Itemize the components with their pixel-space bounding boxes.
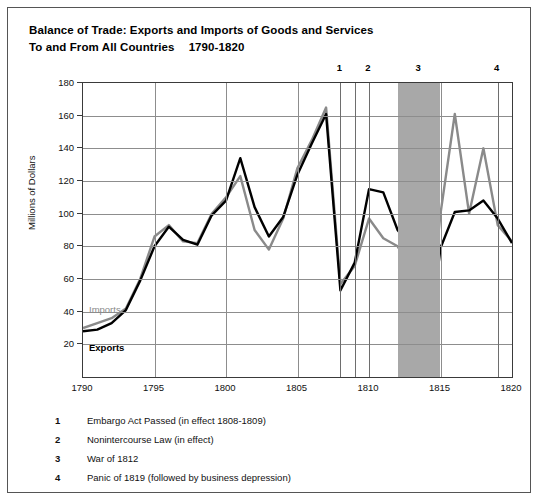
x-axis-tick-label: 1820 bbox=[500, 382, 521, 393]
footnote-text: Embargo Act Passed (in effect 1808-1809) bbox=[87, 415, 266, 426]
war-of-1812-band bbox=[398, 83, 441, 377]
plot-box: Imports Exports bbox=[82, 82, 513, 378]
gridline-v bbox=[441, 83, 442, 377]
gridline-v bbox=[298, 83, 299, 377]
event-line bbox=[340, 83, 341, 377]
event-marker-3: 3 bbox=[415, 62, 420, 73]
x-axis-tick-label: 1815 bbox=[429, 382, 450, 393]
gridline-v bbox=[226, 83, 227, 377]
y-axis-tick-label: 20 bbox=[40, 338, 74, 349]
event-marker-2: 2 bbox=[365, 62, 370, 73]
exports-series-label: Exports bbox=[89, 342, 124, 353]
y-axis-tick-label: 140 bbox=[40, 142, 74, 153]
x-axis-tick-label: 1805 bbox=[286, 382, 307, 393]
event-line bbox=[369, 83, 370, 377]
footnote-number: 2 bbox=[55, 434, 67, 445]
y-axis-tick-label: 160 bbox=[40, 109, 74, 120]
y-axis-tick-label: 80 bbox=[40, 240, 74, 251]
footnote-item: 3 War of 1812 bbox=[55, 453, 455, 472]
footnote-item: 4 Panic of 1819 (followed by business de… bbox=[55, 472, 455, 491]
imports-series-label: Imports bbox=[89, 304, 121, 315]
gridline-v bbox=[155, 83, 156, 377]
chart-page: Balance of Trade: Exports and Imports of… bbox=[0, 0, 540, 502]
footnote-item: 1 Embargo Act Passed (in effect 1808-180… bbox=[55, 415, 455, 434]
x-axis-tick-label: 1810 bbox=[357, 382, 378, 393]
y-axis-tick-label: 60 bbox=[40, 273, 74, 284]
x-axis-tick-label: 1790 bbox=[71, 382, 92, 393]
event-marker-4: 4 bbox=[494, 62, 499, 73]
footnote-item: 2 Nonintercourse Law (in effect) bbox=[55, 434, 455, 453]
footnote-number: 1 bbox=[55, 415, 67, 426]
footnote-text: Panic of 1819 (followed by business depr… bbox=[87, 472, 291, 483]
event-line bbox=[355, 83, 356, 377]
footnote-number: 3 bbox=[55, 453, 67, 464]
footnotes: 1 Embargo Act Passed (in effect 1808-180… bbox=[55, 415, 455, 491]
y-axis-title: Millions of Dollars bbox=[26, 156, 37, 230]
y-axis-tick-label: 120 bbox=[40, 175, 74, 186]
y-axis-tick-label: 180 bbox=[40, 77, 74, 88]
x-axis-tick-label: 1800 bbox=[214, 382, 235, 393]
footnote-number: 4 bbox=[55, 472, 67, 483]
y-axis-tick-label: 40 bbox=[40, 305, 74, 316]
footnote-text: Nonintercourse Law (in effect) bbox=[87, 434, 214, 445]
footnote-text: War of 1812 bbox=[87, 453, 138, 464]
event-marker-1: 1 bbox=[337, 62, 342, 73]
event-line bbox=[498, 83, 499, 377]
x-axis-tick-label: 1795 bbox=[143, 382, 164, 393]
y-axis-tick-label: 100 bbox=[40, 207, 74, 218]
